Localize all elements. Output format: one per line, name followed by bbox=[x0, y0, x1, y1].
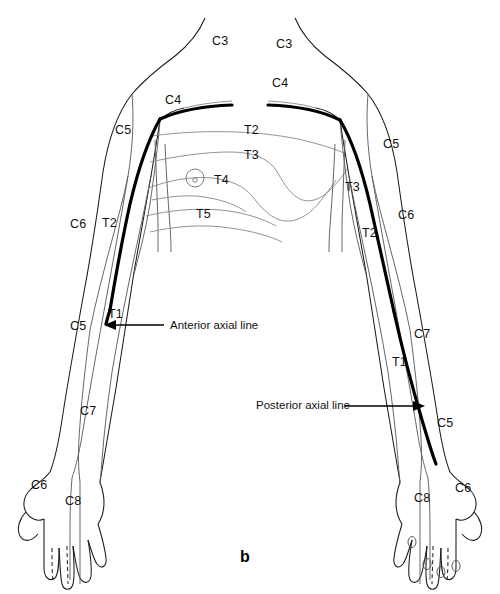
label-right-c5-forearm: C5 bbox=[437, 416, 453, 430]
anterior-axial-line-stroke bbox=[106, 105, 394, 324]
label-left-c7-forearm: C7 bbox=[80, 404, 96, 418]
label-trunk-t5: T5 bbox=[196, 207, 211, 221]
label-trunk-t3: T3 bbox=[244, 148, 259, 162]
label-right-c4-shoulder: C4 bbox=[272, 76, 288, 90]
label-right-t3-axilla: T3 bbox=[345, 180, 360, 194]
label-trunk-t4: T4 bbox=[214, 173, 229, 187]
label-right-c3-neck: C3 bbox=[276, 37, 292, 51]
label-left-c3-neck: C3 bbox=[212, 34, 228, 48]
label-right-c8-hand: C8 bbox=[414, 491, 430, 505]
label-right-c6-arm: C6 bbox=[398, 208, 414, 222]
left-dermatome-boundaries bbox=[70, 94, 171, 584]
label-left-c6-hand: C6 bbox=[31, 478, 47, 492]
label-trunk-t2: T2 bbox=[244, 123, 259, 137]
label-left-c4-shoulder: C4 bbox=[165, 93, 181, 107]
label-left-t2-arm: T2 bbox=[102, 216, 117, 230]
anterior-axial-leader bbox=[104, 320, 164, 330]
label-right-t1-arm: T1 bbox=[392, 355, 407, 369]
label-right-c7-arm: C7 bbox=[414, 327, 430, 341]
label-right-c6-hand: C6 bbox=[455, 481, 471, 495]
label-left-c5-forearm: C5 bbox=[70, 319, 86, 333]
annotation-posterior-axial-line: Posterior axial line bbox=[256, 399, 350, 411]
dermatome-figure: C3 C4 C5 C6 T2 T1 C5 C7 C6 C8 T2 T3 T4 T… bbox=[0, 0, 500, 594]
label-left-c5-shoulder: C5 bbox=[115, 123, 131, 137]
label-right-c5-shoulder: C5 bbox=[383, 137, 399, 151]
label-right-t2-arm: T2 bbox=[362, 226, 377, 240]
posterior-axial-leader bbox=[345, 401, 425, 411]
label-left-t1-arm: T1 bbox=[108, 307, 123, 321]
label-left-c8-hand: C8 bbox=[65, 494, 81, 508]
annotation-anterior-axial-line: Anterior axial line bbox=[170, 319, 258, 331]
label-left-c6-arm: C6 bbox=[70, 217, 86, 231]
right-body-outline bbox=[295, 18, 482, 589]
panel-caption: b bbox=[240, 548, 250, 566]
right-hand-nail-marks bbox=[408, 537, 460, 578]
